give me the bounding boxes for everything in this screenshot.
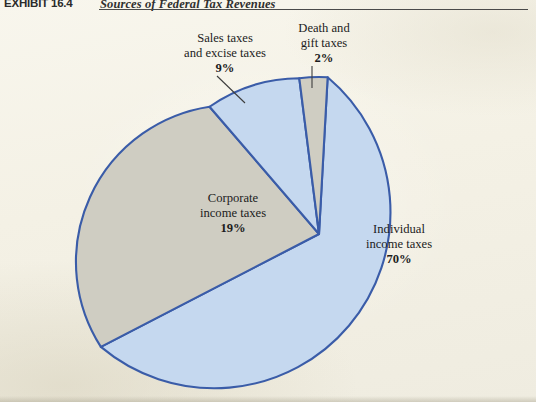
pie-label-death-and-gift-taxes: Death and gift taxes 2% (272, 21, 376, 66)
pie-label-individual-income-taxes: Individual income taxes 70% (336, 222, 462, 267)
exhibit-page: EXHIBIT 16.4 Sources of Federal Tax Reve… (0, 0, 536, 402)
pie-label-individual-percent: 70% (336, 252, 462, 267)
pie-label-corporate-percent: 19% (166, 221, 300, 236)
pie-label-corporate-line1: Corporate (166, 191, 300, 206)
pie-chart: Sales taxes and excise taxes 9% Death an… (0, 0, 536, 402)
pie-label-death-line2: gift taxes (272, 36, 376, 51)
pie-label-death-percent: 2% (272, 51, 376, 66)
pie-label-individual-line2: income taxes (336, 237, 462, 252)
pie-label-individual-line1: Individual (336, 222, 462, 237)
pie-label-corporate-line2: income taxes (166, 206, 300, 221)
pie-label-corporate-income-taxes: Corporate income taxes 19% (166, 191, 300, 236)
pie-label-death-line1: Death and (272, 21, 376, 36)
